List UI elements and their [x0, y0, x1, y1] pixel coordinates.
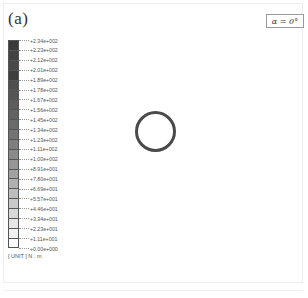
colorbar-swatch	[8, 218, 19, 228]
colorbar-swatch	[8, 99, 19, 109]
tick-label: +1.56e+002	[30, 107, 58, 113]
colorbar	[8, 40, 19, 248]
tick-label: +2.12e+002	[30, 57, 58, 63]
colorbar-swatch	[8, 198, 19, 208]
colorbar-swatch	[8, 159, 19, 169]
divider	[3, 290, 303, 291]
cross-section-circle	[135, 111, 176, 152]
tick-label: +1.67e+002	[30, 97, 58, 103]
unit-label: [ UNIT ] N . m	[8, 253, 42, 259]
colorbar-tick: +1.45e+002	[19, 119, 58, 120]
tick-leader	[19, 129, 29, 130]
colorbar-tick: +5.57e+001	[19, 198, 58, 199]
colorbar-tick: +1.00e+002	[19, 159, 58, 160]
colorbar-swatch	[8, 50, 19, 60]
colorbar-swatch	[8, 70, 19, 80]
tick-leader	[19, 179, 29, 180]
tick-leader	[19, 198, 29, 199]
tick-label: +1.45e+002	[30, 117, 58, 123]
tick-leader	[19, 80, 29, 81]
colorbar-tick: +4.46e+001	[19, 208, 58, 209]
colorbar-tick: +2.34e+002	[19, 40, 58, 41]
colorbar-tick: +2.12e+002	[19, 60, 58, 61]
tick-label: +1.00e+002	[30, 156, 58, 162]
colorbar-swatch	[8, 149, 19, 159]
tick-label: +7.80e+001	[30, 176, 58, 182]
colorbar-swatch	[8, 80, 19, 90]
tick-leader	[19, 90, 29, 91]
colorbar-swatch	[8, 129, 19, 139]
tick-label: +2.23e+002	[30, 47, 58, 53]
tick-leader	[19, 50, 29, 51]
colorbar-tick: +1.56e+002	[19, 109, 58, 110]
colorbar-tick: +2.01e+002	[19, 70, 58, 71]
angle-label: α = 0°	[266, 14, 304, 28]
colorbar-tick: +2.23e+002	[19, 50, 58, 51]
colorbar-swatch	[8, 208, 19, 218]
colorbar-swatch	[8, 228, 19, 238]
tick-label: +2.01e+002	[30, 67, 58, 73]
tick-leader	[19, 238, 29, 239]
tick-label: +1.11e+002	[30, 146, 57, 152]
colorbar-tick: +1.34e+002	[19, 129, 58, 130]
tick-leader	[19, 70, 29, 71]
colorbar-tick: +8.91e+001	[19, 169, 58, 170]
colorbar-swatch	[8, 139, 19, 149]
tick-leader	[19, 248, 29, 249]
colorbar-swatch	[8, 119, 19, 129]
tick-label: +1.23e+002	[30, 137, 58, 143]
tick-label: +1.89e+002	[30, 77, 58, 83]
colorbar-tick: +1.11e+001	[19, 238, 57, 239]
tick-label: +8.91e+001	[30, 166, 58, 172]
tick-leader	[19, 119, 29, 120]
colorbar-tick: +0.00e+000	[19, 248, 58, 249]
tick-leader	[19, 149, 29, 150]
tick-leader	[19, 218, 29, 219]
tick-label: +5.57e+001	[30, 196, 58, 202]
colorbar-tick: +3.34e+001	[19, 218, 58, 219]
colorbar-tick: +1.11e+002	[19, 149, 57, 150]
tick-leader	[19, 189, 29, 190]
colorbar-tick: +2.23e+001	[19, 228, 58, 229]
tick-label: +4.46e+001	[30, 206, 58, 212]
tick-label: +1.11e+001	[30, 236, 57, 242]
colorbar-swatch	[8, 188, 19, 198]
tick-label: +0.00e+000	[30, 246, 58, 252]
colorbar-swatch	[8, 238, 19, 248]
colorbar-tick: +1.89e+002	[19, 80, 58, 81]
colorbar-swatch	[8, 89, 19, 99]
tick-label: +3.34e+001	[30, 216, 58, 222]
colorbar-tick: +1.78e+002	[19, 90, 58, 91]
tick-leader	[19, 109, 29, 110]
colorbar-tick: +1.67e+002	[19, 99, 58, 100]
tick-label: +1.34e+002	[30, 127, 58, 133]
colorbar-swatch	[8, 40, 19, 50]
tick-leader	[19, 169, 29, 170]
colorbar-swatch	[8, 60, 19, 70]
colorbar-tick: +6.69e+001	[19, 189, 58, 190]
colorbar-swatch	[8, 169, 19, 179]
colorbar-swatch	[8, 178, 19, 188]
tick-leader	[19, 60, 29, 61]
tick-leader	[19, 139, 29, 140]
panel-label: (a)	[8, 9, 28, 29]
tick-leader	[19, 99, 29, 100]
tick-label: +1.78e+002	[30, 87, 58, 93]
tick-leader	[19, 159, 29, 160]
colorbar-tick: +7.80e+001	[19, 179, 58, 180]
tick-label: +2.34e+002	[30, 38, 58, 44]
tick-label: +6.69e+001	[30, 186, 58, 192]
colorbar-swatch	[8, 109, 19, 119]
tick-leader	[19, 208, 29, 209]
tick-label: +2.23e+001	[30, 226, 58, 232]
colorbar-tick: +1.23e+002	[19, 139, 58, 140]
tick-leader	[19, 228, 29, 229]
tick-leader	[19, 40, 29, 41]
